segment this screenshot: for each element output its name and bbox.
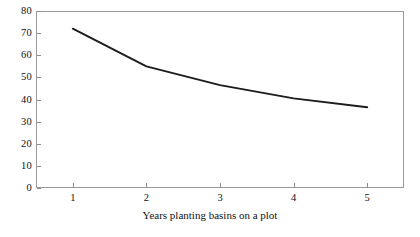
x-tick-mark [294,183,295,188]
x-tick-mark [146,183,147,188]
y-tick-mark [37,33,41,34]
plot-area [36,11,404,188]
y-tick-label: 10 [4,161,32,171]
y-tick-label: 50 [4,72,32,82]
x-tick-label: 3 [210,192,230,204]
x-tick-label: 1 [63,192,83,204]
x-axis-title: Years planting basins on a plot [0,209,420,222]
y-tick-mark [37,55,41,56]
y-tick-mark [37,166,41,167]
y-tick-mark [37,144,41,145]
y-tick-mark [37,122,41,123]
y-tick-label: 70 [4,28,32,38]
x-tick-label: 4 [284,192,304,204]
y-tick-mark [37,188,41,189]
y-tick-label: 80 [4,6,32,16]
x-tick-label: 5 [357,192,377,204]
x-tick-mark [73,183,74,188]
line-chart: 01020304050607080 12345 Years planting b… [0,0,420,237]
y-tick-label: 40 [4,95,32,105]
y-tick-label: 60 [4,50,32,60]
x-tick-mark [220,183,221,188]
x-tick-mark [367,183,368,188]
y-tick-mark [37,11,41,12]
y-tick-mark [37,100,41,101]
y-tick-label: 30 [4,117,32,127]
y-tick-label: 0 [4,183,32,193]
y-tick-mark [37,77,41,78]
y-axis: 01020304050607080 [0,0,32,237]
y-tick-label: 20 [4,139,32,149]
x-tick-label: 2 [136,192,156,204]
